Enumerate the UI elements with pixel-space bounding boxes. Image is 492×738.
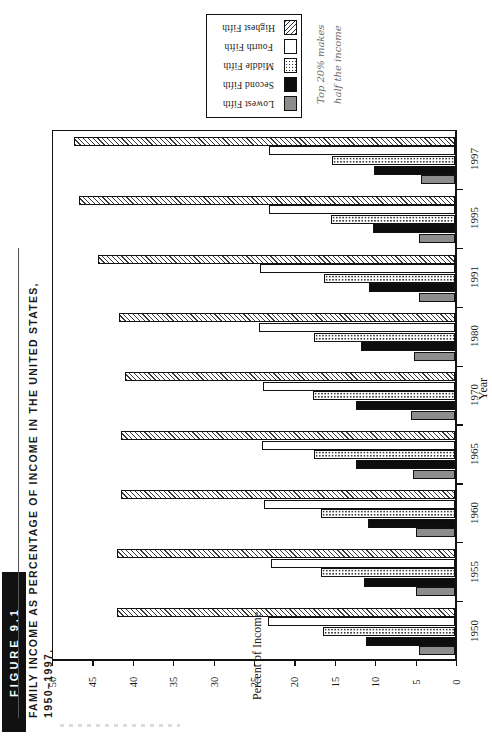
bar-1955-highest-fifth	[117, 549, 455, 558]
bar-1960-middle-fifth	[321, 509, 455, 518]
value-tick-label-45: 45	[87, 677, 98, 688]
hatched-swatch	[284, 21, 297, 36]
value-axis-title: Percent of Income	[250, 612, 265, 700]
bar-1970-second-fifth	[356, 401, 455, 410]
category-label-1991: 1991	[468, 266, 480, 288]
bar-1960-fourth-fifth	[264, 500, 455, 509]
bar-1960-second-fifth	[368, 519, 455, 528]
gray-solid-swatch	[284, 97, 297, 112]
value-tick-label-0: 0	[451, 679, 462, 684]
category-axis-title: Year	[476, 378, 491, 400]
legend-item-4: Highest Fifth	[211, 20, 297, 36]
category-axis: 199719951991198019701965196019551950	[456, 130, 458, 660]
bar-1965-fourth-fifth	[262, 441, 455, 450]
bar-1997-fourth-fifth	[269, 146, 455, 155]
bar-1960-lowest-fifth	[416, 528, 455, 537]
bar-1950-highest-fifth	[117, 608, 455, 617]
bar-1955-lowest-fifth	[416, 587, 455, 596]
bar-1995-middle-fifth	[331, 215, 455, 224]
bar-group-1991	[53, 249, 455, 308]
category-label-1980: 1980	[468, 325, 480, 347]
category-tick-1955	[456, 542, 463, 543]
bar-1995-second-fifth	[373, 224, 455, 233]
figure-page: FIGURE 9.1 Family Income as Percentage o…	[0, 0, 492, 738]
value-tick-0	[456, 660, 457, 666]
black-solid-swatch	[284, 78, 297, 93]
white-solid-swatch	[284, 40, 297, 55]
value-tick-35	[173, 660, 174, 666]
bar-1965-second-fifth	[356, 460, 455, 469]
bar-1950-middle-fifth	[323, 627, 456, 636]
value-tick-label-5: 5	[411, 679, 422, 684]
bar-1997-middle-fifth	[332, 156, 455, 165]
bar-group-1965	[53, 425, 455, 484]
page-artifact	[60, 724, 180, 727]
bars-container	[53, 131, 455, 659]
bar-1970-middle-fifth	[313, 391, 455, 400]
bar-1980-highest-fifth	[119, 313, 455, 322]
legend-label: Middle Fifth	[211, 61, 284, 71]
bar-1995-fourth-fifth	[269, 205, 455, 214]
bar-1965-lowest-fifth	[413, 470, 455, 479]
bar-1991-lowest-fifth	[419, 293, 455, 302]
category-tick-1965	[456, 424, 463, 425]
value-tick-label-20: 20	[289, 677, 300, 688]
bar-1970-highest-fifth	[125, 372, 455, 381]
bar-1997-highest-fifth	[74, 137, 455, 146]
bar-1997-second-fifth	[374, 166, 455, 175]
chart-legend: Lowest FifthSecond FifthMiddle FifthFour…	[206, 14, 302, 118]
value-tick-40	[133, 660, 134, 666]
category-label-1960: 1960	[468, 502, 480, 524]
category-axis-line	[456, 130, 457, 660]
annotation-line-1: Top 20% makes	[312, 25, 329, 104]
value-tick-label-30: 30	[209, 677, 220, 688]
bar-1991-highest-fifth	[98, 255, 455, 264]
bar-1960-highest-fifth	[121, 490, 455, 499]
category-label-1955: 1955	[468, 561, 480, 583]
bar-group-1955	[53, 543, 455, 602]
legend-label: Second Fifth	[211, 80, 284, 90]
figure-title-block: Family Income as Percentage of Income in…	[18, 28, 56, 718]
bar-group-1995	[53, 190, 455, 249]
bar-group-1970	[53, 367, 455, 426]
legend-label: Lowest Fifth	[211, 99, 284, 109]
category-tick-1960	[456, 483, 463, 484]
bar-1950-fourth-fifth	[268, 617, 455, 626]
bar-1980-lowest-fifth	[414, 352, 455, 361]
bar-1995-lowest-fifth	[419, 234, 455, 243]
bar-1991-fourth-fifth	[260, 264, 455, 273]
bar-1980-fourth-fifth	[259, 323, 455, 332]
category-tick-1950	[456, 601, 463, 602]
legend-item-1: Second Fifth	[211, 77, 297, 93]
value-tick-label-35: 35	[168, 677, 179, 688]
category-tick-1980	[456, 307, 463, 308]
page-title: Family Income as Percentage of Income in…	[26, 28, 41, 718]
bar-1980-second-fifth	[361, 342, 455, 351]
bar-group-1960	[53, 484, 455, 543]
bar-1997-lowest-fifth	[421, 175, 455, 184]
value-tick-10	[375, 660, 376, 666]
value-tick-label-10: 10	[370, 677, 381, 688]
value-tick-5	[416, 660, 417, 666]
bar-group-1997	[53, 131, 455, 190]
value-tick-20	[294, 660, 295, 666]
bar-1995-highest-fifth	[79, 196, 455, 205]
bar-1965-middle-fifth	[314, 450, 455, 459]
value-tick-45	[92, 660, 93, 666]
value-tick-50	[52, 660, 53, 666]
dotted-swatch	[284, 59, 297, 74]
bar-1950-lowest-fifth	[419, 646, 455, 655]
bar-1955-middle-fifth	[321, 568, 455, 577]
legend-item-2: Middle Fifth	[211, 58, 297, 74]
legend-item-0: Lowest Fifth	[211, 96, 297, 112]
bar-1970-lowest-fifth	[411, 411, 455, 420]
bar-1965-highest-fifth	[121, 431, 455, 440]
title-divider	[18, 248, 19, 718]
value-tick-15	[335, 660, 336, 666]
category-tick-1995	[456, 189, 463, 190]
category-tick-1991	[456, 248, 463, 249]
category-label-1995: 1995	[468, 207, 480, 229]
value-tick-label-50: 50	[47, 677, 58, 688]
handwritten-annotation: Top 20% makes half the income	[312, 25, 346, 104]
value-tick-label-15: 15	[330, 677, 341, 688]
